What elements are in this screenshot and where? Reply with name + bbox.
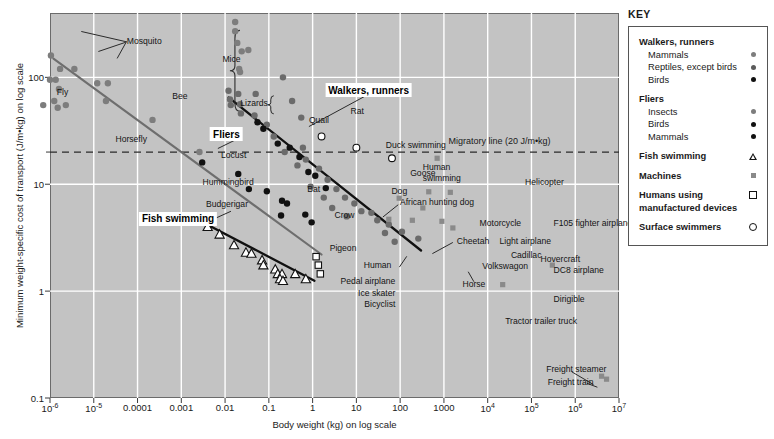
legend-group-symbol [747,170,759,183]
legend-item-symbol [747,74,759,87]
x-tick-label: 104 [480,402,494,414]
point-label-freight-steamer: Freight steamer [546,364,606,374]
point-label-tractor-trailer-truck: Tractor trailer truck [505,316,577,326]
legend-gap [639,143,759,150]
x-axis-ticks: 10-610-50.00010.0010.010.111010010001041… [50,402,619,418]
legend-group-heading: Fliers [639,93,668,106]
point-label-fly: Fly [57,87,68,97]
legend-item-symbol [747,131,759,144]
point-label-bicyclist: Bicyclist [364,299,395,309]
x-tick-label: 1 [310,402,315,413]
legend-item-label: Birds [639,74,673,87]
legend-gap [639,214,759,221]
x-tick-label: 1000 [433,402,454,413]
legend-gap [639,163,759,170]
point-label-dog: Dog [391,186,407,196]
dark-gray-dot-icon [751,65,756,70]
x-tick-label: 10 [351,402,362,413]
migratory-line-label: Migratory line (20 J/m•kg) [448,136,550,146]
point-label-crow: Crow [335,210,355,220]
fliers-callout: Fliers [210,127,243,141]
x-tick-label: 10-5 [85,402,102,414]
y-axis-title: Minimum weight-specific cost of transpor… [14,1,25,391]
legend-panel: KEY Walkers, runnersMammalsReptiles, exc… [628,8,768,246]
legend-group-6: Surface swimmers [639,221,759,234]
legend-item: Mammals [639,49,759,62]
legend-title: KEY [628,8,768,20]
point-label-f105: F105 fighter airplane [554,218,633,228]
point-label-hovercraft: Hovercraft [540,254,580,264]
point-label-freight-train: Freight train [548,377,594,387]
plot-area: MosquitoFlyBeeHorseflyLocustHummingbirdB… [50,13,619,398]
gray-square-icon [751,173,756,178]
legend-item: Reptiles, except birds [639,61,759,74]
point-label-hummingbird: Hummingbird [203,177,254,187]
legend-group-symbol [747,221,759,234]
legend-item-symbol [747,106,759,119]
legend-gap [639,86,759,93]
point-label-mice: Mice [222,54,240,64]
open-circle-icon [749,223,757,231]
legend-group-heading: Walkers, runners [639,36,718,49]
gray-dot-icon [751,52,756,57]
legend-item-label: Mammals [639,131,692,144]
x-tick-label: 0.0001 [123,402,152,413]
point-label-ice-skater: Ice skater [358,288,395,298]
black-dot-icon [751,122,756,127]
walkers-runners-callout: Walkers, runners [325,83,412,97]
point-label-budgerigar: Budgerigar [206,199,248,209]
point-label-african-hunting-dog: African hunting dog [400,197,474,207]
point-label-locust: Locust [221,150,246,160]
legend-box: Walkers, runnersMammalsReptiles, except … [628,26,768,246]
x-tick-label: 0.001 [169,402,193,413]
x-tick-label: 106 [568,402,582,414]
legend-group-2: Fliers [639,93,759,106]
legend-gap [639,182,759,189]
legend-group-3: Fish swimming [639,150,759,163]
legend-item-label: Reptiles, except birds [639,61,741,74]
x-tick-label: 100 [392,402,408,413]
legend-group-symbol [747,36,759,49]
legend-group-heading: Machines [639,170,685,183]
legend-item: Birds [639,74,759,87]
point-label-human-swimming-line2: swimming [423,173,461,183]
plot-vector-layer [50,13,619,398]
point-label-human: Human [364,260,392,270]
legend-group-heading: Surface swimmers [639,221,725,234]
point-label-volkswagon: Volkswagon [482,261,528,271]
point-label-pedal-airplane: Pedal airplane [340,276,395,286]
legend-item-symbol [747,61,759,74]
point-label-dirigible: Dirigible [554,294,585,304]
x-tick-label: 107 [612,402,626,414]
x-tick-label: 0.1 [262,402,275,413]
point-label-rat: Rat [350,106,363,116]
black-dot-icon [751,134,756,139]
point-label-cadillac: Cadillac [511,250,542,260]
legend-group-heading: Fish swimming [639,150,710,163]
legend-item-label: Insects [639,106,681,119]
x-tick-label: 105 [524,402,538,414]
y-tick-label: 100 [28,72,44,83]
legend-item-label: Birds [639,118,673,131]
legend-group-5: Humans using manufactured devices [639,189,759,214]
legend-item-symbol [747,118,759,131]
legend-item: Mammals [639,131,759,144]
x-axis-title: Body weight (kg) on log scale [50,419,619,430]
legend-group-heading: Humans using manufactured devices [639,189,747,214]
point-label-duck-swimming: Duck swimming [386,140,446,150]
point-label-pigeon: Pigeon [330,243,357,253]
x-tick-label: 10-6 [42,402,59,414]
chart-figure: 1001010.1 Minimum weight-specific cost o… [0,0,774,439]
legend-item-symbol [747,49,759,62]
point-label-light-airplane: Light airplane [500,236,552,246]
point-label-helicopter: Helicopter [525,177,564,187]
point-label-human-swimming-line1: Human [423,162,451,172]
legend-group-4: Machines [639,170,759,183]
point-label-motorcycle: Motorcycle [480,218,522,228]
gray-dot-icon [751,109,756,114]
x-tick-label: 0.01 [216,402,235,413]
point-label-quail: Quail [309,115,329,125]
point-label-cheetah: Cheetah [457,236,490,246]
fish-swimming-callout: Fish swimming [139,212,217,226]
y-tick-label: 10 [33,179,44,190]
